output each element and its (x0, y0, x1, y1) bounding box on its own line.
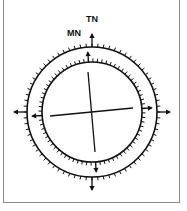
tick-mark (114, 173, 115, 176)
compass-diagram: TN MN (0, 0, 187, 211)
tick-mark (151, 83, 154, 84)
tick-mark (153, 134, 156, 135)
tick-mark (129, 56, 131, 59)
tick-mark (43, 132, 46, 133)
tick-mark (125, 168, 127, 171)
tick-mark (63, 171, 64, 174)
tick-mark (110, 62, 111, 65)
tick-mark (114, 64, 116, 67)
tick-mark (135, 138, 138, 140)
tick-mark (45, 136, 48, 138)
tick-mark (84, 59, 85, 62)
tick-mark (138, 64, 140, 66)
true-north-label: TN (86, 14, 98, 24)
tick-mark (61, 152, 63, 155)
tick-mark (121, 69, 123, 72)
tick-mark (153, 89, 156, 90)
tick-mark (25, 100, 28, 101)
tick-mark (49, 81, 52, 83)
tick-mark (64, 155, 66, 158)
tick-mark (151, 139, 154, 140)
tick-mark (52, 77, 55, 79)
west-arrow-icon (13, 109, 18, 114)
tick-mark (42, 93, 45, 94)
west-arrow-icon (31, 113, 36, 118)
center-crosshair (50, 72, 133, 152)
tick-mark (53, 56, 55, 59)
tick-mark (63, 50, 64, 53)
tick-mark (39, 102, 42, 103)
tick-mark (80, 176, 81, 179)
tick-mark (119, 50, 120, 53)
tick-mark (132, 141, 135, 143)
tick-mark (48, 162, 50, 165)
tick-mark (66, 65, 68, 68)
tick-mark (138, 90, 141, 91)
tick-mark (53, 165, 55, 168)
tick-mark (116, 156, 118, 159)
tick-mark (141, 104, 144, 105)
tick-mark (58, 168, 60, 171)
tick-mark (145, 149, 148, 151)
tick-mark (58, 53, 60, 56)
tick-mark (55, 74, 57, 77)
tick-mark (156, 100, 159, 101)
north-arrow-icon (85, 51, 90, 56)
tick-mark (39, 120, 42, 121)
tick-mark (33, 78, 36, 80)
east-arrow-icon (148, 105, 153, 110)
tick-mark (69, 157, 71, 160)
tick-mark (148, 145, 151, 147)
south-arrow-icon (89, 186, 94, 191)
tick-mark (58, 70, 60, 73)
tick-mark (44, 158, 46, 160)
tick-mark (134, 162, 136, 165)
tick-mark (133, 82, 136, 84)
tick-mark (28, 134, 31, 135)
tick-mark (100, 161, 101, 164)
magnetic-north-label: MN (67, 28, 81, 38)
tick-mark (40, 154, 43, 156)
tick-mark (50, 143, 53, 145)
tick-mark (69, 173, 70, 176)
tick-mark (70, 63, 71, 66)
tick-mark (141, 122, 144, 123)
tick-mark (114, 48, 115, 51)
tick-mark (136, 86, 139, 88)
east-arrow-icon (166, 109, 171, 114)
tick-mark (62, 68, 64, 71)
tick-mark (131, 78, 134, 80)
tick-mark (36, 149, 39, 151)
tick-mark (120, 153, 122, 156)
tick-mark (46, 84, 49, 86)
tick-mark (48, 140, 51, 142)
north-arrow-icon (89, 33, 94, 38)
tick-mark (28, 89, 31, 90)
tick-mark (123, 151, 125, 154)
tick-mark (54, 147, 57, 149)
tick-mark (148, 78, 151, 80)
tick-mark (125, 53, 127, 56)
tick-mark (48, 60, 50, 63)
tick-mark (129, 165, 131, 168)
tick-mark (69, 48, 70, 51)
tick-mark (80, 45, 81, 48)
tick-mark (44, 89, 47, 91)
tick-mark (118, 66, 120, 69)
tick-mark (57, 150, 59, 153)
tick-mark (127, 148, 129, 151)
tick-mark (145, 73, 148, 75)
tick-mark (25, 123, 28, 124)
tick-mark (125, 72, 127, 75)
tick-mark (40, 68, 43, 70)
tick-mark (130, 145, 133, 147)
tick-mark (30, 83, 33, 84)
tick-mark (73, 159, 74, 162)
tick-mark (112, 158, 113, 161)
tick-mark (82, 161, 83, 164)
tick-mark (128, 75, 131, 77)
tick-mark (103, 176, 104, 179)
tick-mark (134, 60, 136, 63)
tick-mark (139, 130, 142, 131)
tick-mark (30, 139, 33, 140)
